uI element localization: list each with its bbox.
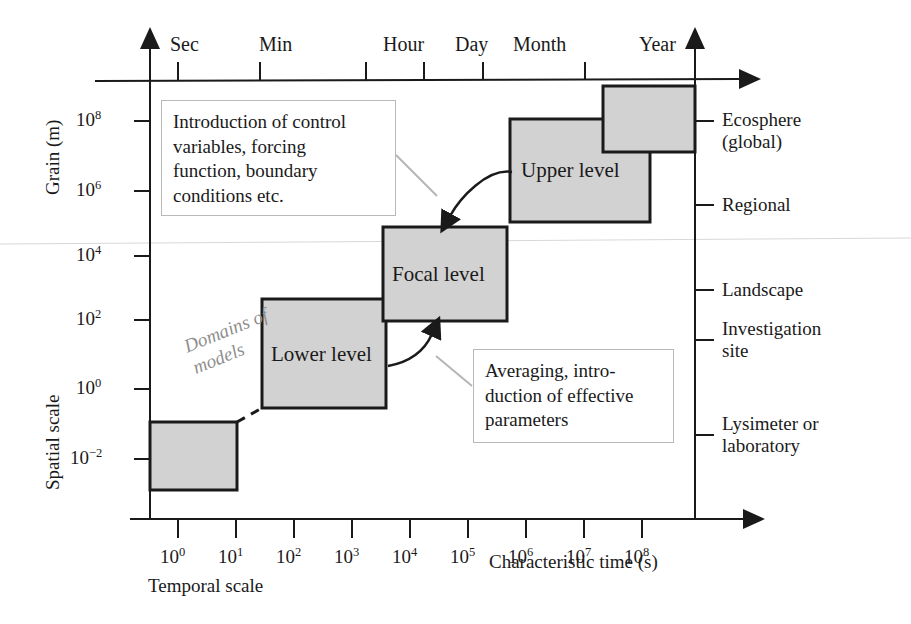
diagram-vector-layer bbox=[0, 0, 911, 624]
x-axis-title-temporal-scale: Temporal scale bbox=[148, 575, 263, 597]
box-label-upper-level: Upper level bbox=[521, 158, 620, 183]
bottom-tick-exponent-1e3: 3 bbox=[353, 545, 359, 559]
callout-control-line4: conditions etc. bbox=[173, 184, 384, 209]
bottom-tick-mantissa-1e1: 10 bbox=[218, 546, 237, 567]
callout-averaging-line2: duction of effective bbox=[485, 384, 662, 409]
bottom-tick-mantissa-1e5: 10 bbox=[450, 546, 469, 567]
bottom-tick-mantissa-1e3: 10 bbox=[334, 546, 353, 567]
leader-line-upper-callout bbox=[396, 155, 437, 196]
x-axis-title-characteristic-time: Characteristic time (s) bbox=[489, 551, 658, 573]
box-largest bbox=[603, 86, 695, 152]
bottom-tick-label-1e3: 103 bbox=[334, 546, 359, 568]
figure-canvas: Sec Min Hour Day Month Year 108 106 104 … bbox=[0, 0, 911, 624]
box-label-lower-level: Lower level bbox=[271, 342, 372, 367]
bottom-tick-label-1e1: 101 bbox=[218, 546, 243, 568]
callout-averaging-line1: Averaging, intro- bbox=[485, 359, 662, 384]
top-tick-label-year: Year bbox=[639, 33, 676, 57]
y-axis-title-spatial-scale: Spatial scale bbox=[42, 395, 64, 491]
callout-control-line2: variables, forcing bbox=[173, 135, 384, 160]
left-tick-mantissa-1e0: 10 bbox=[76, 377, 95, 398]
bottom-tick-exponent-1e0: 0 bbox=[179, 545, 185, 559]
top-tick-label-day: Day bbox=[455, 33, 488, 57]
right-label-investigation-line1: Investigation bbox=[722, 318, 821, 340]
right-label-regional: Regional bbox=[722, 194, 791, 216]
right-label-ecosphere: Ecosphere (global) bbox=[722, 109, 801, 154]
box-label-focal-level: Focal level bbox=[392, 262, 485, 287]
top-tick-label-month: Month bbox=[513, 33, 566, 57]
top-tick-label-min: Min bbox=[259, 33, 292, 57]
top-tick-label-hour: Hour bbox=[383, 33, 424, 57]
bottom-tick-exponent-1e1: 1 bbox=[237, 545, 243, 559]
callout-control-line1: Introduction of control bbox=[173, 110, 384, 135]
bottom-tick-mantissa-1e2: 10 bbox=[276, 546, 295, 567]
y-axis-title-grain: Grain (m) bbox=[42, 120, 64, 195]
bottom-tick-exponent-1e5: 5 bbox=[469, 545, 475, 559]
bottom-tick-label-1e4: 104 bbox=[392, 546, 417, 568]
arrow-upper-to-focal bbox=[450, 172, 512, 216]
bottom-tick-label-1e0: 100 bbox=[160, 546, 185, 568]
left-tick-exponent-1e2: 2 bbox=[95, 307, 101, 321]
bottom-tick-label-1e2: 102 bbox=[276, 546, 301, 568]
top-tick-label-sec: Sec bbox=[170, 33, 199, 57]
left-tick-label-1e6: 106 bbox=[76, 179, 101, 201]
bottom-tick-mantissa-1e4: 10 bbox=[392, 546, 411, 567]
right-label-ecosphere-line2: (global) bbox=[722, 131, 801, 153]
arrow-lower-to-focal bbox=[388, 334, 432, 366]
bottom-axis-ticks bbox=[178, 519, 642, 538]
left-tick-label-1e2: 102 bbox=[76, 308, 101, 330]
left-tick-exponent-1e0: 0 bbox=[95, 376, 101, 390]
right-axis bbox=[695, 47, 714, 519]
right-label-investigation-site: Investigation site bbox=[722, 318, 821, 363]
bottom-axis bbox=[130, 519, 745, 538]
right-axis-ticks bbox=[695, 121, 714, 435]
top-axis-ticks bbox=[178, 62, 585, 81]
right-label-ecosphere-line1: Ecosphere bbox=[722, 109, 801, 131]
right-label-landscape: Landscape bbox=[722, 279, 803, 301]
left-tick-exponent-1e8: 8 bbox=[95, 108, 101, 122]
left-tick-mantissa-1e6: 10 bbox=[76, 179, 95, 200]
left-tick-mantissa-1e2: 10 bbox=[76, 308, 95, 329]
leader-line-lower-callout bbox=[436, 356, 472, 386]
left-tick-mantissa-1e4: 10 bbox=[76, 244, 95, 265]
dashed-connector bbox=[237, 408, 262, 422]
left-tick-exponent-1e4: 4 bbox=[95, 243, 101, 257]
bottom-tick-exponent-1e4: 4 bbox=[411, 545, 417, 559]
left-tick-mantissa-1em2: 10 bbox=[70, 447, 89, 468]
right-label-lysimeter-line2: laboratory bbox=[722, 435, 819, 457]
bottom-tick-label-1e5: 105 bbox=[450, 546, 475, 568]
right-label-investigation-line2: site bbox=[722, 340, 821, 362]
callout-control-variables: Introduction of control variables, forci… bbox=[161, 100, 396, 216]
bottom-tick-exponent-1e2: 2 bbox=[295, 545, 301, 559]
right-label-lysimeter: Lysimeter or laboratory bbox=[722, 413, 819, 458]
left-tick-label-1e4: 104 bbox=[76, 244, 101, 266]
left-axis bbox=[134, 47, 150, 520]
left-tick-label-1e0: 100 bbox=[76, 377, 101, 399]
callout-control-line3: function, boundary bbox=[173, 159, 384, 184]
callout-averaging-line3: parameters bbox=[485, 408, 662, 433]
left-tick-label-1em2: 10−2 bbox=[70, 447, 102, 469]
callout-averaging: Averaging, intro- duction of effective p… bbox=[473, 349, 674, 443]
right-label-lysimeter-line1: Lysimeter or bbox=[722, 413, 819, 435]
left-tick-mantissa-1e8: 10 bbox=[76, 109, 95, 130]
left-axis-ticks bbox=[134, 121, 150, 459]
top-axis bbox=[95, 62, 741, 81]
bottom-tick-mantissa-1e0: 10 bbox=[160, 546, 179, 567]
left-tick-label-1e8: 108 bbox=[76, 109, 101, 131]
left-tick-exponent-1e6: 6 bbox=[95, 178, 101, 192]
top-axis-line bbox=[95, 79, 741, 81]
box-smallest bbox=[150, 422, 237, 490]
left-tick-exponent-1em2: −2 bbox=[89, 446, 102, 460]
